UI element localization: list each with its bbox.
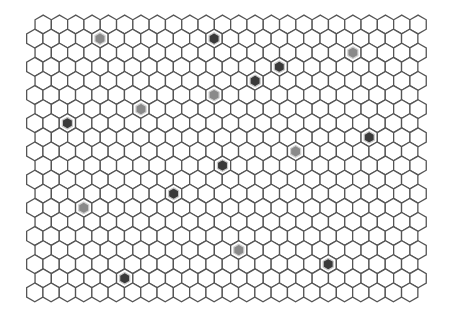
hex-cell[interactable] (59, 283, 75, 302)
hex-cell[interactable] (271, 283, 287, 302)
hex-cell[interactable] (353, 283, 369, 302)
hex-cell[interactable] (402, 283, 418, 302)
hex-cell[interactable] (141, 283, 157, 302)
hex-cells (27, 15, 427, 302)
hex-cell[interactable] (320, 283, 336, 302)
hex-cell[interactable] (92, 283, 108, 302)
hex-cell[interactable] (287, 283, 303, 302)
hex-cell[interactable] (385, 283, 401, 302)
hex-cell[interactable] (222, 283, 238, 302)
hex-cell[interactable] (206, 283, 222, 302)
hex-cell[interactable] (108, 283, 124, 302)
hex-cell[interactable] (27, 283, 43, 302)
hex-cell[interactable] (336, 283, 352, 302)
hex-cell[interactable] (124, 283, 140, 302)
hex-cell[interactable] (239, 283, 255, 302)
hex-cell[interactable] (76, 283, 92, 302)
hex-cell[interactable] (304, 283, 320, 302)
hex-cell[interactable] (255, 283, 271, 302)
hex-cell[interactable] (369, 283, 385, 302)
hex-cell[interactable] (43, 283, 59, 302)
hex-cell[interactable] (190, 283, 206, 302)
hex-grid (0, 0, 449, 322)
hex-cell[interactable] (157, 283, 173, 302)
hex-board (0, 0, 449, 322)
hex-cell[interactable] (173, 283, 189, 302)
